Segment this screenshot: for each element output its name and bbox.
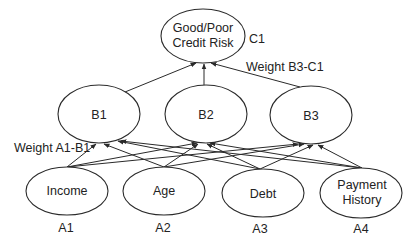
node-a4-payment-history: Payment History (320, 168, 402, 218)
edge-a3-to-b2 (207, 144, 260, 169)
node-a4-tag: A4 (353, 222, 368, 236)
node-c1-label-line-1: Good/Poor (173, 21, 233, 35)
node-a3-label: Debt (250, 187, 277, 201)
node-b3-label: B3 (303, 109, 318, 123)
node-b3: B3 (270, 86, 352, 144)
node-a2-age: Age (123, 167, 205, 215)
neural-network-diagram: Good/Poor Credit Risk C1 Weight B3-C1 B1… (0, 0, 412, 249)
edge-b1-to-c1 (125, 63, 196, 92)
node-b1-label: B1 (91, 108, 106, 122)
node-c1-tag: C1 (249, 32, 265, 46)
node-b2: B2 (165, 85, 247, 143)
node-a1-income: Income (26, 167, 108, 215)
node-a1-label: Income (47, 184, 88, 198)
annotation-weight-b3-c1: Weight B3-C1 (246, 60, 324, 74)
edge-a2-to-b1 (104, 144, 164, 167)
node-a1-tag: A1 (58, 221, 73, 235)
node-a4-label-line-2: History (343, 193, 383, 207)
annotation-weight-a1-b1: Weight A1-B1 (14, 141, 90, 155)
node-b1: B1 (58, 85, 140, 143)
node-a2-tag: A2 (155, 221, 170, 235)
node-a3-debt: Debt (222, 169, 304, 217)
node-a3-tag: A3 (252, 222, 267, 236)
node-b2-label: B2 (198, 108, 213, 122)
node-a4-label-line-1: Payment (337, 178, 387, 192)
node-c1-credit-risk: Good/Poor Credit Risk (161, 9, 245, 63)
node-c1-label-line-2: Credit Risk (172, 36, 234, 50)
node-a2-label: Age (153, 184, 175, 198)
